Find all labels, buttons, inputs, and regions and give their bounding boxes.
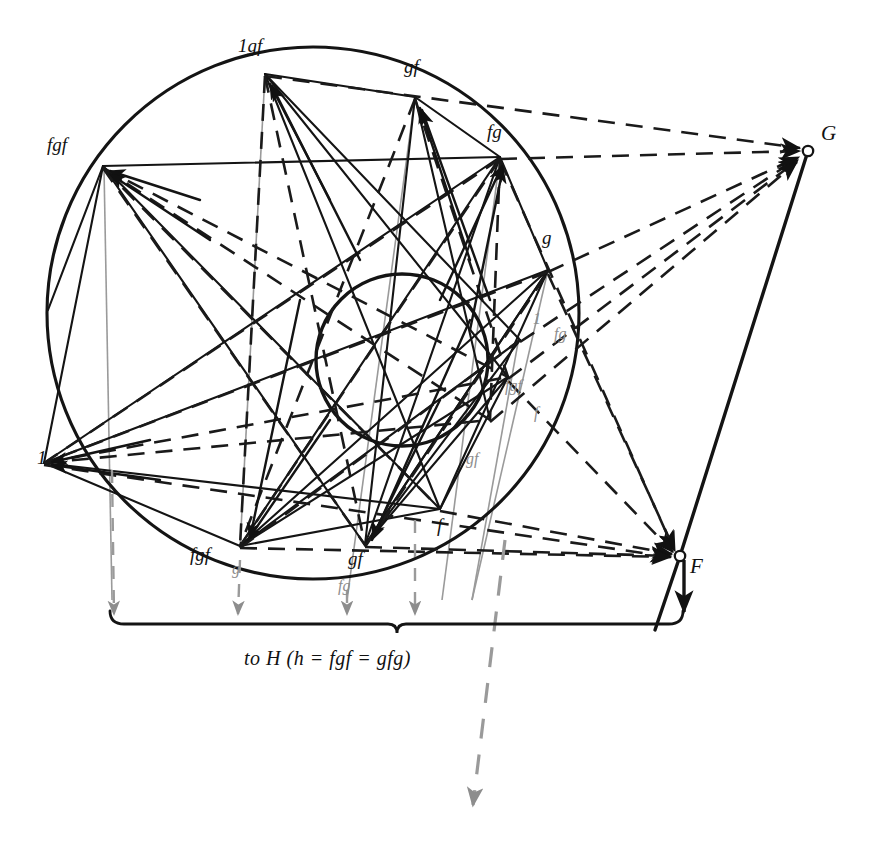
ghost-label-fg-inner: fg — [554, 326, 566, 342]
ghost-long-arrow — [473, 540, 505, 805]
ghost-label-1-inner: 1 — [533, 311, 541, 327]
vertex-label-gf-top: gf — [404, 57, 419, 76]
point-F-marker — [675, 551, 685, 561]
dashed-lines-to-G — [265, 76, 800, 422]
vertex-label-fgf-left: fgf — [47, 135, 67, 154]
point-G-marker — [803, 146, 813, 156]
vertex-label-fg-right: fg — [487, 122, 502, 141]
vertex-label-gf-bottom: gf — [348, 549, 363, 568]
vertex-label-fgf-bottom: fgf — [190, 545, 210, 564]
diagram-svg — [0, 0, 885, 864]
vertex-label-1-left: 1 — [37, 448, 47, 467]
brace-caption: to H (h = fgf = gfg) — [244, 647, 411, 670]
vertex-label-g-right: g — [542, 228, 552, 247]
ghost-label-g-bottom: g — [232, 561, 240, 577]
dimension-brace — [110, 611, 683, 633]
point-label-G: G — [821, 123, 836, 144]
ghost-vertical-lines — [104, 74, 548, 600]
point-label-F: F — [690, 556, 703, 577]
vertex-label-f-lower: f — [437, 516, 442, 535]
ghost-label-fg-bottom: fg — [338, 578, 350, 594]
ghost-label-fgf-inner: fgf — [505, 378, 522, 394]
ghost-label-gf-inner: gf — [466, 451, 478, 467]
ghost-label-f-inner: f — [534, 405, 538, 421]
figure-canvas: 1gf gf fg fgf g 1 f fgf gf 1 fg fgf f gf… — [0, 0, 885, 864]
vertex-label-1gf: 1gf — [238, 36, 262, 55]
